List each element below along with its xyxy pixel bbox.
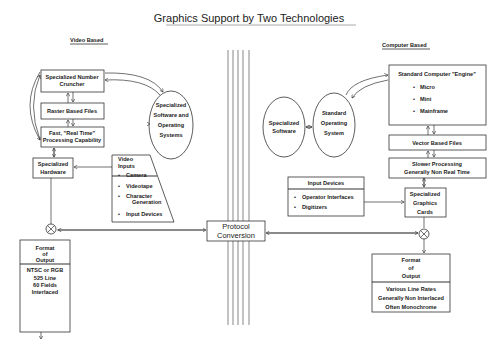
right-format-title-3: Output (402, 273, 420, 279)
software-os-label-3: Operating (158, 122, 185, 128)
left-format-detail-1: NTSC or RGB (27, 267, 63, 273)
svg-text:•: • (118, 211, 120, 217)
left-format-title-3: Output (36, 257, 54, 263)
graphics-cards-label-3: Cards (417, 209, 433, 215)
number-cruncher-label-1: Specialized Number (45, 74, 99, 80)
video-inputs-item-videotape: Videotape (126, 183, 153, 189)
vector-files-label: Vector Based Files (412, 140, 462, 146)
fast-processing-label-2: Processing Capability (43, 137, 102, 143)
hardware-label-1: Specialized (38, 161, 69, 167)
standard-os-label-3: System (324, 130, 344, 136)
svg-text:•: • (294, 204, 296, 210)
svg-text:•: • (294, 194, 296, 200)
left-heading: Video Based (70, 37, 104, 43)
software-os-label-1: Specialized (156, 102, 187, 108)
bus-lines (228, 50, 249, 325)
video-inputs-item-generation: Generation (132, 199, 162, 205)
input-devices-item-operator: Operator Interfaces (302, 194, 354, 200)
protocol-label-2: Conversion (217, 231, 255, 240)
software-os-label-2: Software and (153, 112, 189, 118)
svg-text:•: • (413, 108, 415, 114)
engine-item-micro: Micro (420, 84, 436, 90)
svg-text:•: • (413, 96, 415, 102)
right-heading: Computer Based (382, 42, 427, 48)
number-cruncher-label-2: Cruncher (60, 81, 86, 87)
engine-item-mainframe: Mainframe (420, 108, 448, 114)
fast-processing-label-1: Fast, "Real Time" (49, 130, 96, 136)
video-inputs-item-camera: • (118, 172, 120, 178)
right-format-detail-1: Various Line Rates (386, 286, 436, 292)
video-inputs-item-input-devices: Input Devices (126, 211, 162, 217)
page-title: Graphics Support by Two Technologies (154, 12, 345, 24)
input-devices-item-digitizers: Digitizers (302, 204, 327, 210)
standard-os-label-2: Operating (321, 120, 348, 126)
specialized-software-label-1: Specialized (269, 120, 300, 126)
svg-text:•: • (413, 84, 415, 90)
engine-item-mini: Mini (420, 96, 432, 102)
graphics-cards-label-2: Graphics (413, 200, 437, 206)
software-os-label-4: Systems (159, 132, 182, 138)
specialized-software-label-2: Software (272, 128, 296, 134)
raster-files-label: Raster Based Files (47, 108, 97, 114)
left-format-detail-4: Interlaced (32, 289, 59, 295)
slower-processing-label-1: Slower Processing (412, 161, 463, 167)
svg-text:•: • (118, 183, 120, 189)
left-format-detail-2: 525 Line (34, 275, 56, 281)
diagram-canvas: Graphics Support by Two Technologies Vid… (0, 0, 499, 340)
video-inputs-title-2: Inputs (118, 163, 135, 169)
hardware-label-2: Hardware (40, 169, 66, 175)
right-format-title-2: of (408, 265, 413, 271)
protocol-label-1: Protocol (222, 222, 250, 231)
standard-os-label-1: Standard (322, 110, 347, 116)
input-devices-title: Input Devices (308, 180, 344, 186)
left-format-detail-3: 60 Fields (33, 282, 57, 288)
specialized-software-ellipse (263, 97, 305, 157)
video-inputs-title-1: Video (118, 156, 134, 162)
engine-title: Standard Computer "Engine" (398, 71, 476, 77)
slower-processing-label-2: Generally Non Real Time (404, 169, 470, 175)
right-format-detail-2: Generally Non Interlaced (378, 295, 444, 301)
svg-text:Camera: Camera (126, 172, 147, 178)
graphics-cards-label-1: Specialized (410, 191, 441, 197)
right-format-detail-3: Often Monochrome (385, 304, 436, 310)
svg-text:•: • (118, 193, 120, 199)
right-format-title-1: Format (402, 257, 421, 263)
